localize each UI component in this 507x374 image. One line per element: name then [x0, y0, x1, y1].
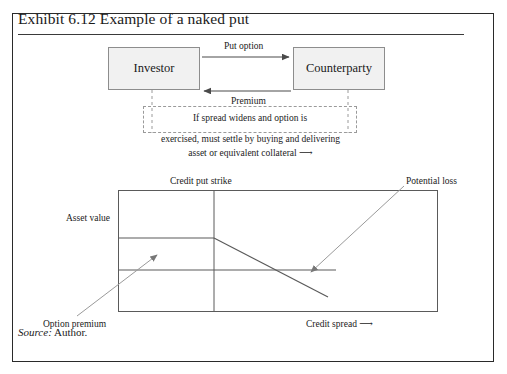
entity-label-investor: Investor [134, 61, 175, 76]
source-value: Author. [52, 326, 87, 338]
entity-box-investor: Investor [108, 47, 200, 90]
chart-label-credit-put-strike: Credit put strike [170, 176, 232, 186]
flow-label-put-option: Put option [224, 41, 263, 51]
chart-label-potential-loss: Potential loss [406, 176, 457, 186]
entity-label-counterparty: Counterparty [306, 61, 372, 76]
title-divider [18, 34, 464, 35]
chart-label-asset-value: Asset value [66, 213, 110, 223]
chart-plot-area [118, 190, 438, 312]
entity-box-counterparty: Counterparty [293, 47, 385, 90]
note-line-3: asset or equivalent collateral ⟶ [118, 147, 383, 158]
source-note: Source: Author. [18, 326, 87, 338]
chart-label-credit-spread: Credit spread ⟶ [306, 318, 373, 329]
page-title: Exhibit 6.12 Example of a naked put [18, 10, 249, 28]
note-line-1: If spread widens and option is [143, 113, 357, 123]
flow-label-premium: Premium [231, 96, 266, 106]
note-line-2: exercised, must settle by buying and del… [118, 134, 383, 144]
source-prefix: Source: [18, 326, 52, 338]
